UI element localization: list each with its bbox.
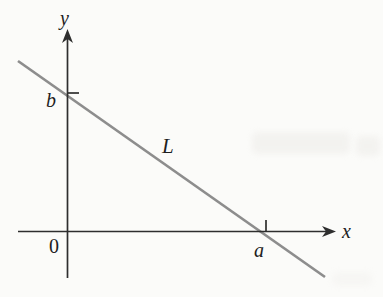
origin-label: 0 bbox=[49, 235, 59, 257]
figure-region: y x 0 b a L bbox=[0, 0, 383, 297]
line-label: L bbox=[161, 134, 174, 158]
y-intercept-label: b bbox=[46, 89, 56, 111]
figure-canvas: y x 0 b a L bbox=[0, 0, 383, 297]
x-axis-label: x bbox=[341, 220, 351, 242]
x-intercept-label: a bbox=[254, 239, 264, 261]
y-axis-label: y bbox=[58, 7, 69, 30]
line-L bbox=[18, 61, 325, 277]
